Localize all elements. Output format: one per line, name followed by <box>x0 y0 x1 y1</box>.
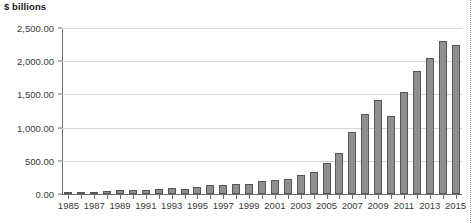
x-tick-mark <box>223 194 224 199</box>
x-tick-label: 1999 <box>239 200 260 211</box>
x-tick-mark <box>417 194 418 199</box>
bar <box>361 114 369 194</box>
y-axis-title: $ billions <box>4 1 46 12</box>
bar <box>439 41 447 194</box>
bar <box>206 185 214 194</box>
x-tick-mark <box>443 194 444 199</box>
x-tick-mark <box>301 194 302 199</box>
bar-series <box>62 28 462 194</box>
right-dotted-rule <box>470 0 471 223</box>
bar <box>426 58 434 194</box>
x-tick-mark <box>249 194 250 199</box>
bar <box>348 132 356 194</box>
x-tick-label: 1991 <box>135 200 156 211</box>
x-tick-label: 1987 <box>84 200 105 211</box>
x-tick-mark <box>404 194 405 199</box>
x-tick-mark <box>172 194 173 199</box>
bar <box>258 181 266 194</box>
plot-area <box>62 28 462 194</box>
x-tick-mark <box>185 194 186 199</box>
x-tick-label: 1995 <box>187 200 208 211</box>
y-tick-label: 500.00 <box>25 155 54 166</box>
bar <box>310 172 318 194</box>
x-tick-label: 2007 <box>342 200 363 211</box>
y-tick-label: 1,000.00 <box>17 122 54 133</box>
x-tick-label: 2015 <box>445 200 466 211</box>
bar <box>335 153 343 194</box>
x-tick-mark <box>133 194 134 199</box>
x-tick-mark <box>275 194 276 199</box>
x-tick-mark <box>327 194 328 199</box>
x-tick-mark <box>378 194 379 199</box>
bar <box>297 175 305 194</box>
y-tick-label: 2,000.00 <box>17 56 54 67</box>
x-tick-label: 1985 <box>58 200 79 211</box>
bar <box>452 45 460 194</box>
x-tick-mark <box>146 194 147 199</box>
x-tick-label: 2005 <box>316 200 337 211</box>
x-tick-mark <box>236 194 237 199</box>
x-tick-mark <box>391 194 392 199</box>
x-tick-label: 2009 <box>368 200 389 211</box>
y-tick-label: 0.00 <box>36 189 55 200</box>
x-tick-mark <box>430 194 431 199</box>
x-tick-mark <box>314 194 315 199</box>
x-tick-mark <box>107 194 108 199</box>
x-tick-label: 1993 <box>161 200 182 211</box>
y-axis-labels: 0.00500.001,000.001,500.002,000.002,500.… <box>0 28 62 194</box>
y-tick-label: 1,500.00 <box>17 89 54 100</box>
x-tick-label: 2003 <box>290 200 311 211</box>
x-tick-label: 1997 <box>213 200 234 211</box>
x-tick-mark <box>352 194 353 199</box>
x-tick-mark <box>288 194 289 199</box>
x-tick-mark <box>94 194 95 199</box>
x-tick-mark <box>159 194 160 199</box>
x-axis: 1985198719891991199319951997199920012003… <box>62 194 462 223</box>
x-tick-mark <box>81 194 82 199</box>
x-tick-mark <box>339 194 340 199</box>
x-tick-mark <box>365 194 366 199</box>
x-tick-mark <box>262 194 263 199</box>
x-tick-label: 2001 <box>264 200 285 211</box>
bar <box>271 180 279 194</box>
x-tick-mark <box>456 194 457 199</box>
bar <box>374 100 382 194</box>
y-tick-label: 2,500.00 <box>17 23 54 34</box>
bar <box>284 179 292 194</box>
bar <box>219 185 227 194</box>
x-tick-label: 2013 <box>419 200 440 211</box>
bar <box>193 187 201 194</box>
x-tick-mark <box>120 194 121 199</box>
bar <box>400 92 408 194</box>
bar <box>413 71 421 195</box>
bar <box>232 184 240 194</box>
bar <box>245 184 253 194</box>
x-tick-label: 1989 <box>109 200 130 211</box>
x-tick-mark <box>210 194 211 199</box>
bar <box>387 116 395 194</box>
x-tick-mark <box>68 194 69 199</box>
bar <box>323 163 331 194</box>
bar-chart-figure: $ billions 0.00500.001,000.001,500.002,0… <box>0 0 472 223</box>
x-tick-label: 2011 <box>394 200 414 211</box>
x-tick-mark <box>197 194 198 199</box>
